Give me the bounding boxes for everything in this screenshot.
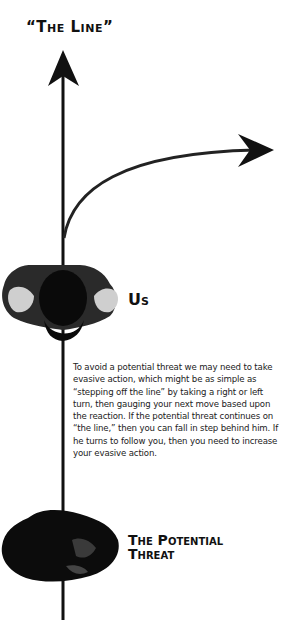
threat-label-line2: Threat [128,547,223,561]
description-text: To avoid a potential threat we may need … [73,361,279,459]
threat-label: The Potential Threat [128,533,223,561]
us-figure-icon [2,265,118,341]
threat-label-line1: The Potential [128,533,223,547]
threat-figure-icon [2,510,119,582]
evasive-path [64,150,262,238]
us-label: Us [128,290,149,309]
line-diagram [0,0,282,620]
